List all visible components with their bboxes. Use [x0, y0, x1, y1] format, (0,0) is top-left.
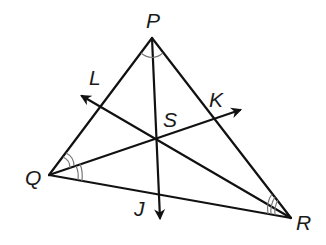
ray-qk [49, 110, 240, 175]
ray-pj [152, 38, 160, 218]
label-q: Q [25, 166, 41, 189]
label-k: K [209, 88, 224, 111]
label-s: S [163, 108, 177, 131]
angle-mark-q-lower-2 [80, 164, 82, 181]
label-j: J [133, 197, 145, 220]
label-l: L [89, 66, 101, 89]
label-p: P [146, 9, 160, 32]
angle-mark-q-lower-1 [76, 166, 78, 180]
diagram-canvas: P Q R S L K J [0, 0, 326, 245]
angle-mark-q-upper-1 [63, 157, 70, 168]
label-r: R [296, 211, 311, 234]
